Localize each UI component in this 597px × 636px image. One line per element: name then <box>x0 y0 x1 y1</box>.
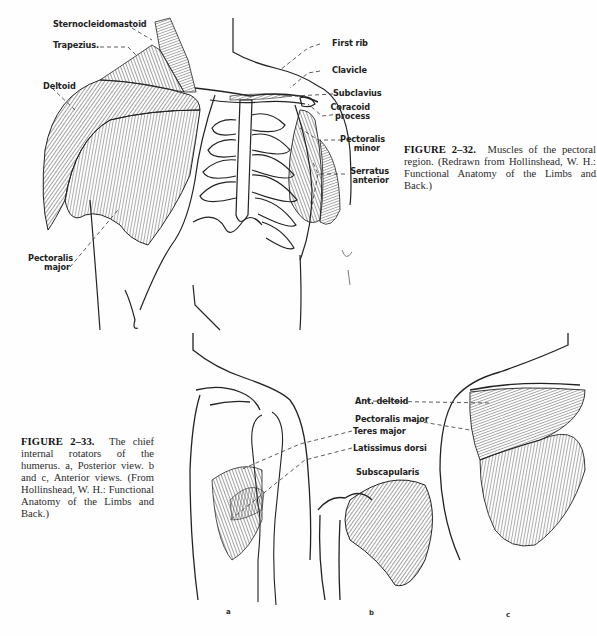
label-pectoralis-major-2-33: Pectoralis major <box>355 415 429 424</box>
panel-label-b: b <box>369 609 374 617</box>
label-pectoralis-major-line2: major <box>44 262 70 272</box>
label-deltoid: Deltoid <box>43 82 76 91</box>
label-sternocleidomastoid: Sternocleidomastoid <box>53 20 147 29</box>
label-first-rib: First rib <box>332 39 368 48</box>
label-teres-major: Teres major <box>353 427 406 436</box>
label-coracoid-process: Coracoid process <box>330 103 370 120</box>
anatomy-illustrations <box>0 0 597 636</box>
figure-2-33-caption-text: The chief internal rotators of the humer… <box>21 436 154 519</box>
serratus-anterior-muscle <box>320 140 340 224</box>
label-serratus-line2: anterior <box>352 175 389 185</box>
subscapularis-muscle <box>345 480 433 586</box>
label-pectoralis-minor: Pectoralis minor <box>340 135 380 152</box>
figure-2-33-caption-label: FIGURE 2–33. <box>21 436 95 447</box>
label-serratus-anterior: Serratus anterior <box>347 167 389 184</box>
label-pectoralis-major: Pectoralis major <box>28 254 70 271</box>
label-clavicle: Clavicle <box>332 66 367 75</box>
label-ant-deltoid: Ant. deltoid <box>355 397 408 406</box>
figure-2-33-caption: FIGURE 2–33. The chief internal rotators… <box>21 436 154 520</box>
panel-label-a: a <box>226 608 231 616</box>
label-pectoralis-minor-line2: minor <box>354 143 380 153</box>
figure-2-32-caption: FIGURE 2–32. Muscles of the pectoral reg… <box>404 144 596 192</box>
pectoralis-minor-muscle <box>289 110 322 223</box>
label-subscapularis: Subscapularis <box>356 468 419 477</box>
textbook-page: Sternocleidomastoid Trapezius. Deltoid P… <box>0 0 597 636</box>
figure-2-32-caption-label: FIGURE 2–32. <box>404 144 476 155</box>
label-subclavius: Subclavius <box>333 89 382 98</box>
panel-label-c: c <box>506 611 510 619</box>
label-trapezius: Trapezius. <box>53 41 99 50</box>
label-coracoid-line2: process <box>335 111 370 121</box>
label-latissimus-dorsi: Latissimus dorsi <box>353 444 427 453</box>
